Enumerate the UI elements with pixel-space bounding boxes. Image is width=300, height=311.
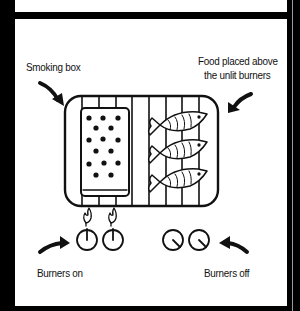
smoking-box-arrow-icon bbox=[40, 83, 64, 106]
food-arrow-icon bbox=[228, 94, 251, 113]
grill-diagram bbox=[0, 0, 300, 311]
flame-icon bbox=[109, 208, 117, 226]
flame-icon bbox=[84, 208, 92, 226]
burners-off-arrow-icon bbox=[219, 236, 247, 252]
burner-knob-off-icon bbox=[189, 230, 209, 250]
burner-knob-on-icon bbox=[77, 229, 97, 250]
burner-knob-on-icon bbox=[103, 229, 123, 250]
burner-knob-off-icon bbox=[163, 230, 183, 250]
burners-on-arrow-icon bbox=[40, 236, 70, 252]
smoking-box bbox=[81, 108, 129, 196]
